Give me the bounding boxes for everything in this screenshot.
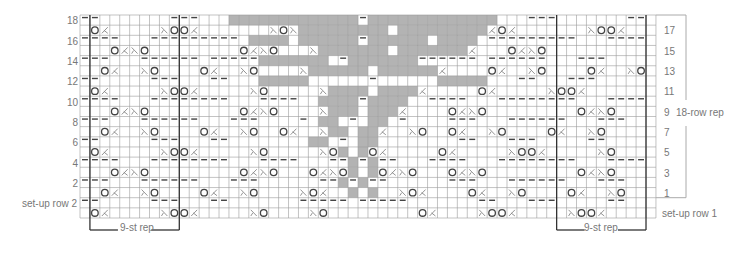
- yarn-over-symbol: [548, 128, 555, 135]
- no-stitch-cell: [437, 25, 447, 35]
- yarn-over-symbol: [330, 149, 337, 156]
- no-stitch-cell: [328, 15, 338, 25]
- no-stitch-cell: [338, 35, 348, 45]
- no-stitch-cell: [348, 157, 358, 167]
- yarn-over-symbol: [111, 108, 118, 115]
- no-stitch-cell: [368, 15, 378, 25]
- yarn-over-symbol: [558, 88, 565, 95]
- no-stitch-cell: [249, 35, 259, 45]
- ssk-symbol: [132, 47, 138, 53]
- no-stitch-cell: [398, 66, 408, 76]
- k2tog-symbol: [102, 88, 108, 94]
- no-stitch-cell: [408, 15, 418, 25]
- yarn-over-symbol: [588, 210, 595, 217]
- no-stitch-cell: [229, 15, 239, 25]
- row-label-11: 11: [664, 86, 674, 97]
- ssk-symbol: [300, 68, 306, 74]
- yarn-over-symbol: [449, 169, 456, 176]
- yarn-over-symbol: [270, 169, 277, 176]
- ssk-symbol: [310, 210, 316, 216]
- yarn-over-symbol: [260, 210, 267, 217]
- no-stitch-cell: [358, 25, 368, 35]
- no-stitch-cell: [328, 66, 338, 76]
- k2tog-symbol: [459, 169, 465, 175]
- no-stitch-cell: [308, 66, 318, 76]
- yarn-over-symbol: [578, 210, 585, 217]
- no-stitch-cell: [328, 106, 338, 116]
- row-label-setup-1: set-up row 1: [662, 208, 717, 219]
- no-stitch-cell: [378, 66, 388, 76]
- no-stitch-cell: [447, 45, 457, 55]
- k2tog-symbol: [390, 169, 396, 175]
- no-stitch-cell: [348, 25, 358, 35]
- no-stitch-cell: [378, 35, 388, 45]
- no-stitch-cell: [259, 35, 269, 45]
- no-stitch-cell: [428, 45, 438, 55]
- no-stitch-cell: [437, 45, 447, 55]
- yarn-over-symbol: [538, 47, 545, 54]
- no-stitch-cell: [388, 56, 398, 66]
- no-stitch-cell: [338, 147, 348, 157]
- row-label-16: 16: [26, 36, 78, 47]
- yarn-over-symbol: [102, 189, 109, 196]
- row-label-12: 12: [26, 76, 78, 87]
- no-stitch-cell: [298, 25, 308, 35]
- no-stitch-cell: [348, 106, 358, 116]
- ssk-symbol: [251, 88, 257, 94]
- row-label-10: 10: [26, 97, 78, 108]
- no-stitch-cell: [239, 15, 249, 25]
- k2tog-symbol: [469, 47, 475, 53]
- ssk-symbol: [569, 210, 575, 216]
- no-stitch-cell: [328, 45, 338, 55]
- ssk-symbol: [261, 169, 267, 175]
- no-stitch-cell: [358, 56, 368, 66]
- k2tog-symbol: [122, 169, 128, 175]
- ssk-symbol: [489, 129, 495, 135]
- no-stitch-cell: [368, 106, 378, 116]
- yarn-over-symbol: [638, 68, 645, 75]
- no-stitch-cell: [318, 15, 328, 25]
- yarn-over-symbol: [201, 128, 208, 135]
- yarn-over-symbol: [241, 169, 248, 176]
- k2tog-symbol: [588, 169, 594, 175]
- no-stitch-cell: [408, 56, 418, 66]
- ssk-symbol: [161, 210, 167, 216]
- no-stitch-cell: [457, 25, 467, 35]
- k2tog-symbol: [320, 169, 326, 175]
- no-stitch-cell: [368, 56, 378, 66]
- ssk-symbol: [161, 88, 167, 94]
- yarn-over-symbol: [260, 88, 267, 95]
- yarn-over-symbol: [588, 68, 595, 75]
- yarn-over-symbol: [181, 27, 188, 34]
- yarn-over-symbol: [181, 210, 188, 217]
- yarn-over-symbol: [499, 210, 506, 217]
- no-stitch-cell: [338, 15, 348, 25]
- ssk-symbol: [261, 108, 267, 114]
- row-label-2: 2: [26, 178, 78, 189]
- no-stitch-cell: [318, 137, 328, 147]
- yarn-over-symbol: [608, 108, 615, 115]
- no-stitch-cell: [308, 35, 318, 45]
- row-label-8: 8: [26, 117, 78, 128]
- no-stitch-cell: [388, 66, 398, 76]
- k2tog-symbol: [489, 27, 495, 33]
- yarn-over-symbol: [151, 189, 158, 196]
- k2tog-symbol: [588, 108, 594, 114]
- no-stitch-cell: [348, 45, 358, 55]
- ssk-symbol: [410, 129, 416, 135]
- no-stitch-cell: [348, 35, 358, 45]
- no-stitch-cell: [298, 56, 308, 66]
- row-label-18: 18: [26, 15, 78, 26]
- row-label-13: 13: [664, 66, 675, 77]
- no-stitch-cell: [408, 66, 418, 76]
- no-stitch-cell: [378, 96, 388, 106]
- no-stitch-cell: [318, 45, 328, 55]
- ssk-symbol: [529, 68, 535, 74]
- no-stitch-cell: [358, 45, 368, 55]
- k2tog-symbol: [499, 68, 505, 74]
- yarn-over-symbol: [509, 47, 516, 54]
- no-stitch-cell: [398, 35, 408, 45]
- yarn-over-symbol: [608, 169, 615, 176]
- no-stitch-cell: [338, 66, 348, 76]
- k2tog-symbol: [191, 210, 197, 216]
